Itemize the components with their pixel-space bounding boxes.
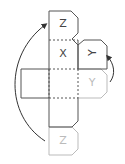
- bottom-face: [49, 98, 78, 127]
- label-x: X: [53, 48, 73, 59]
- right-fold-arrow: [108, 57, 114, 82]
- left-face: [21, 69, 49, 98]
- cube-net-diagram: Z X Y Y Z: [0, 0, 125, 164]
- label-y-ghost: Y: [82, 77, 102, 88]
- label-y-tab: Y: [87, 43, 98, 63]
- label-z-ghost: Z: [53, 135, 73, 146]
- left-fold-arrow: [15, 25, 45, 141]
- label-top-z: Z: [53, 18, 73, 29]
